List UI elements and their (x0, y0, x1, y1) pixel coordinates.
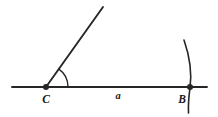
vertex-label-b: B (177, 93, 186, 105)
geometry-canvas: C B a (0, 0, 218, 117)
geometry-diagram: C B a (0, 0, 218, 117)
segment-label-a: a (115, 90, 120, 101)
vertex-label-c: C (42, 93, 50, 105)
vertex-point-b (187, 84, 193, 90)
vertex-point-c (43, 84, 49, 90)
